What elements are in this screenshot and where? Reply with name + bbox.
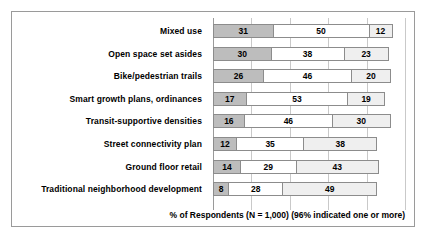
chart-row: Bike/pedestrian trails264620: [12, 69, 414, 83]
category-label: Smart growth plans, ordinances: [12, 92, 202, 106]
bar-segment: 14: [213, 160, 241, 174]
bar-segment: 23: [344, 47, 389, 61]
bar-segment: 20: [351, 69, 390, 83]
bar-segment: 38: [303, 137, 377, 151]
bar-segment: 28: [228, 182, 283, 196]
chart-row: Street connectivity plan123538: [12, 137, 414, 151]
stacked-bar: 142943: [213, 160, 378, 174]
bar-segment: 12: [213, 137, 237, 151]
chart-row: Mixed use315012: [12, 24, 414, 38]
bar-segment: 8: [213, 182, 229, 196]
category-label: Ground floor retail: [12, 160, 202, 174]
chart-container: Mixed use315012Open space set asides3038…: [11, 11, 415, 227]
chart-plot-area: Mixed use315012Open space set asides3038…: [12, 12, 414, 226]
stacked-bar: 82849: [213, 182, 376, 196]
category-label: Transit-supportive densities: [12, 114, 202, 128]
category-label: Bike/pedestrian trails: [12, 69, 202, 83]
bar-segment: 30: [213, 47, 272, 61]
bar-segment: 50: [273, 24, 370, 38]
category-label: Traditional neighborhood development: [12, 182, 202, 196]
bar-segment: 46: [263, 69, 352, 83]
bar-segment: 29: [240, 160, 297, 174]
chart-row: Smart growth plans, ordinances175319: [12, 92, 414, 106]
stacked-bar: 164630: [213, 114, 390, 128]
bar-segment: 43: [296, 160, 380, 174]
stacked-bar: 315012: [213, 24, 392, 38]
bar-segment: 53: [246, 92, 349, 106]
chart-row: Ground floor retail142943: [12, 160, 414, 174]
bar-segment: 26: [213, 69, 264, 83]
stacked-bar: 123538: [213, 137, 376, 151]
chart-row: Transit-supportive densities164630: [12, 114, 414, 128]
chart-row: Traditional neighborhood development8284…: [12, 182, 414, 196]
stacked-bar: 175319: [213, 92, 384, 106]
bar-segment: 35: [236, 137, 304, 151]
bar-segment: 17: [213, 92, 247, 106]
bar-segment: 31: [213, 24, 274, 38]
bar-segment: 12: [369, 24, 393, 38]
bar-segment: 49: [282, 182, 377, 196]
category-label: Mixed use: [12, 24, 202, 38]
bar-segment: 16: [213, 114, 245, 128]
stacked-bar: 303823: [213, 47, 388, 61]
bar-segment: 19: [347, 92, 384, 106]
x-axis-label: % of Respondents (N = 1,000) (96% indica…: [12, 210, 405, 220]
category-label: Street connectivity plan: [12, 137, 202, 151]
chart-row: Open space set asides303823: [12, 47, 414, 61]
bar-segment: 38: [271, 47, 345, 61]
bar-segment: 46: [244, 114, 333, 128]
stacked-bar: 264620: [213, 69, 390, 83]
bar-segment: 30: [332, 114, 391, 128]
category-label: Open space set asides: [12, 47, 202, 61]
